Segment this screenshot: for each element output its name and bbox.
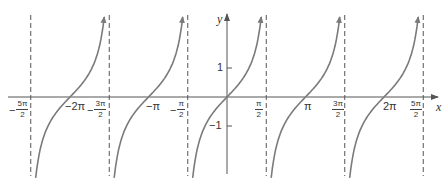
x-tick-label-pi: π <box>304 101 312 112</box>
x-tick-label-neg-pi: −π <box>146 101 160 112</box>
y-axis-label: y <box>217 12 222 27</box>
plot-area <box>0 0 445 178</box>
x-tick-label-neg-pi-over-2: − π2 <box>170 100 185 119</box>
x-tick-label-neg-3pi-over-2: − 3π2 <box>87 100 106 119</box>
x-tick-label-3pi-over-2: 3π2 <box>332 100 344 119</box>
x-tick-label-5pi-over-2: 5π2 <box>410 100 422 119</box>
x-tick-label-neg-5pi-over-2: − 5π2 <box>9 100 28 119</box>
x-tick-label-pi-over-2: π2 <box>255 100 263 119</box>
x-tick-label-neg-2pi: −2π <box>65 101 85 112</box>
y-tick-label-neg1: −1 <box>209 120 222 131</box>
x-tick-label-2pi: 2π <box>383 101 397 112</box>
x-axis-label: x <box>436 100 441 115</box>
y-tick-label-1: 1 <box>217 62 223 73</box>
tangent-graph: y x 1 −1 −2π −π π 2π − 5π2 − 3π2 − π2 π2… <box>0 0 445 178</box>
